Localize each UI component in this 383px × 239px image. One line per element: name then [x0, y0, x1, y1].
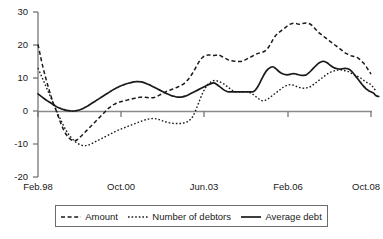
x-tick-label-jun03: Jun.03 [178, 181, 230, 192]
legend-item-amount: Amount [61, 211, 118, 222]
plot-area [0, 0, 383, 239]
series-line-amount [38, 23, 371, 141]
chart-legend: Amount Number of debtors Average debt [55, 205, 328, 227]
x-tick-label-feb06: Feb.06 [262, 181, 314, 192]
x-tick-label-oct08: Oct.08 [340, 181, 383, 192]
y-tick-marks [33, 12, 38, 177]
legend-label-number-of-debtors: Number of debtors [152, 211, 231, 222]
legend-label-average-debt: Average debt [265, 211, 321, 222]
series-line-average-debt [38, 61, 379, 111]
y-tick-label-30: 30 [2, 6, 28, 17]
data-series-group [38, 23, 379, 146]
x-tick-marks [38, 112, 371, 118]
legend-label-amount: Amount [85, 211, 118, 222]
y-tick-label-0: 0 [2, 105, 28, 116]
legend-item-average-debt: Average debt [241, 211, 321, 222]
legend-item-number-of-debtors: Number of debtors [128, 211, 231, 222]
legend-swatch-dotted-icon [128, 212, 148, 220]
legend-swatch-solid-icon [241, 212, 261, 220]
x-tick-label-oct00: Oct.00 [95, 181, 147, 192]
legend-swatch-dashed-icon [61, 212, 81, 220]
y-tick-label-20: 20 [2, 39, 28, 50]
line-chart: 30 20 10 0 -10 -20 Feb.98 Oct.00 Jun.03 … [0, 0, 383, 239]
series-line-number-of-debtors [38, 68, 376, 146]
y-tick-label-neg10: -10 [2, 138, 28, 149]
x-tick-label-feb98: Feb.98 [12, 181, 64, 192]
y-tick-label-10: 10 [2, 72, 28, 83]
